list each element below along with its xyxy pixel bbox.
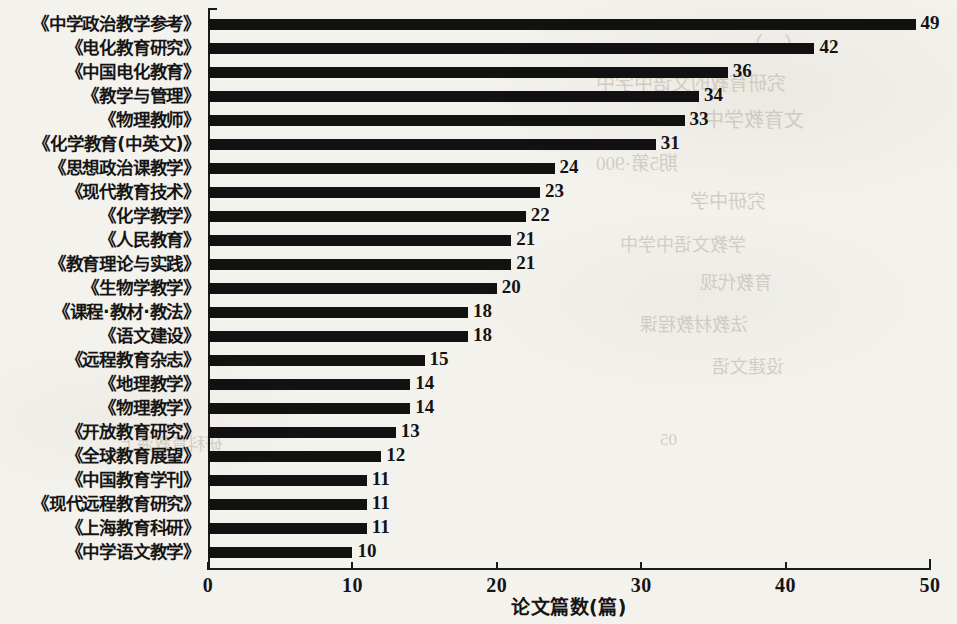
- bar: [208, 499, 367, 510]
- bar-value-label: 23: [545, 179, 564, 203]
- category-label: 《现代教育技术》: [0, 180, 200, 204]
- category-label: 《语文建设》: [0, 324, 200, 348]
- category-label: 《物理教师》: [0, 108, 200, 132]
- category-label: 《思想政治课教学》: [0, 156, 200, 180]
- bar: [208, 379, 410, 390]
- category-label: 《人民教育》: [0, 228, 200, 252]
- category-label: 《开放教育研究》: [0, 420, 200, 444]
- bar: [208, 235, 511, 246]
- bar-row: 11: [208, 492, 930, 516]
- bar-row: 21: [208, 228, 930, 252]
- bar-value-label: 21: [516, 251, 535, 275]
- bar: [208, 403, 410, 414]
- bar-value-label: 11: [372, 515, 390, 539]
- category-label: 《上海教育科研》: [0, 516, 200, 540]
- category-label: 《教育理论与实践》: [0, 252, 200, 276]
- bar: [208, 547, 352, 558]
- category-label: 《中学语文教学》: [0, 540, 200, 564]
- bar-value-label: 18: [473, 299, 492, 323]
- bar: [208, 163, 555, 174]
- bar-row: 31: [208, 132, 930, 156]
- category-label: 《电化教育研究》: [0, 36, 200, 60]
- bar-row: 23: [208, 180, 930, 204]
- category-label: 《地理教学》: [0, 372, 200, 396]
- bar: [208, 43, 814, 54]
- bar: [208, 19, 916, 30]
- bar-value-label: 36: [733, 59, 752, 83]
- bar-value-label: 34: [704, 83, 723, 107]
- bar: [208, 523, 367, 534]
- category-label: 《全球教育展望》: [0, 444, 200, 468]
- bar: [208, 475, 367, 486]
- bar: [208, 67, 728, 78]
- bar-row: 14: [208, 396, 930, 420]
- bar-row: 20: [208, 276, 930, 300]
- bar-row: 11: [208, 468, 930, 492]
- bar-value-label: 14: [415, 395, 434, 419]
- category-label: 《中国电化教育》: [0, 60, 200, 84]
- bar: [208, 139, 656, 150]
- bar-value-label: 15: [430, 347, 449, 371]
- bar: [208, 427, 396, 438]
- bar-value-label: 31: [661, 131, 680, 155]
- bar-row: 10: [208, 540, 930, 564]
- category-label: 《中国教育学刊》: [0, 468, 200, 492]
- category-label: 《教学与管理》: [0, 84, 200, 108]
- bar-value-label: 12: [386, 443, 405, 467]
- category-label: 《现代远程教育研究》: [0, 492, 200, 516]
- category-label: 《物理教学》: [0, 396, 200, 420]
- bar-value-label: 18: [473, 323, 492, 347]
- bar-value-label: 21: [516, 227, 535, 251]
- bar-row: 13: [208, 420, 930, 444]
- bar-row: 49: [208, 12, 930, 36]
- bar: [208, 115, 685, 126]
- plot-area: 01020304050 4942363433312423222121201818…: [208, 8, 930, 568]
- category-label: 《中学政治教学参考》: [0, 12, 200, 36]
- bar: [208, 331, 468, 342]
- bar-row: 15: [208, 348, 930, 372]
- horizontal-bar-chart: 01020304050 4942363433312423222121201818…: [0, 0, 957, 624]
- category-label: 《化学教育(中英文)》: [0, 132, 200, 156]
- bar-row: 22: [208, 204, 930, 228]
- bar-row: 21: [208, 252, 930, 276]
- bar-value-label: 24: [560, 155, 579, 179]
- bar: [208, 91, 699, 102]
- bar-row: 18: [208, 324, 930, 348]
- bar-row: 11: [208, 516, 930, 540]
- bar: [208, 259, 511, 270]
- bar: [208, 187, 540, 198]
- bar-value-label: 14: [415, 371, 434, 395]
- bar-row: 36: [208, 60, 930, 84]
- bar-value-label: 10: [357, 539, 376, 563]
- bar-value-label: 42: [819, 35, 838, 59]
- bar-row: 34: [208, 84, 930, 108]
- category-label: 《化学教学》: [0, 204, 200, 228]
- x-axis-title: 论文篇数(篇): [208, 592, 930, 619]
- bar-value-label: 33: [690, 107, 709, 131]
- y-axis-top-tick: [208, 8, 217, 10]
- bar-value-label: 49: [921, 11, 940, 35]
- bar-row: 33: [208, 108, 930, 132]
- bar: [208, 451, 381, 462]
- bar: [208, 211, 526, 222]
- bar-row: 18: [208, 300, 930, 324]
- bar: [208, 355, 425, 366]
- bar: [208, 283, 497, 294]
- bar-row: 12: [208, 444, 930, 468]
- category-label: 《远程教育杂志》: [0, 348, 200, 372]
- category-label: 《课程·教材·教法》: [0, 300, 200, 324]
- bar-value-label: 13: [401, 419, 420, 443]
- bar: [208, 307, 468, 318]
- bar-row: 42: [208, 36, 930, 60]
- category-label: 《生物学教学》: [0, 276, 200, 300]
- bar-row: 24: [208, 156, 930, 180]
- bar-value-label: 20: [502, 275, 521, 299]
- bar-value-label: 11: [372, 491, 390, 515]
- bar-row: 14: [208, 372, 930, 396]
- bar-value-label: 22: [531, 203, 550, 227]
- x-axis-line: [208, 568, 931, 570]
- bar-value-label: 11: [372, 467, 390, 491]
